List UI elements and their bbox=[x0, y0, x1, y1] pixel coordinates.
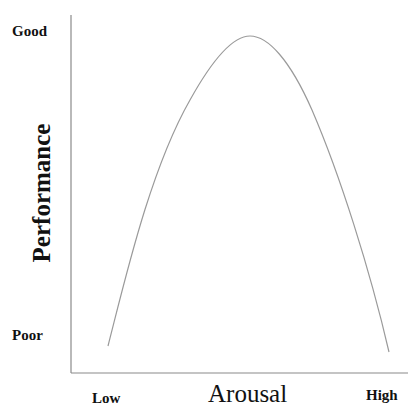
x-tick-label-low: Low bbox=[92, 390, 120, 407]
performance-curve bbox=[108, 36, 389, 352]
x-tick-label-high: High bbox=[366, 387, 398, 404]
y-tick-label-good: Good bbox=[12, 23, 47, 40]
y-axis-title: Performance bbox=[28, 124, 56, 263]
y-tick-label-poor: Poor bbox=[12, 327, 43, 344]
x-axis-title: Arousal bbox=[208, 380, 287, 408]
chart-canvas bbox=[0, 0, 420, 419]
yerkes-dodson-diagram: Good Poor Low High Arousal Performance bbox=[0, 0, 420, 419]
